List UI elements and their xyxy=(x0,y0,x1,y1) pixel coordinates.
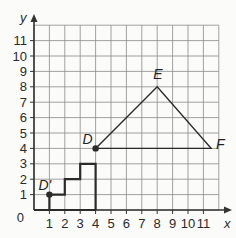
coordinate-plane: 123456789101112345678910110xy D'DEF xyxy=(0,0,236,238)
y-axis-arrow-icon xyxy=(31,14,38,22)
x-axis-label: x xyxy=(223,216,231,231)
x-tick-label: 1 xyxy=(46,216,53,231)
point-label: F xyxy=(216,136,226,152)
point-label: D' xyxy=(38,177,52,193)
x-tick-label: 4 xyxy=(92,216,99,231)
y-tick-label: 6 xyxy=(20,110,27,125)
x-tick-label: 5 xyxy=(107,216,114,231)
x-axis-arrow-icon xyxy=(224,207,232,214)
y-tick-label: 7 xyxy=(20,95,27,110)
x-tick-label: 8 xyxy=(154,216,161,231)
y-tick-label: 2 xyxy=(20,172,27,187)
point-label: D xyxy=(83,131,93,147)
y-axis-label: y xyxy=(19,10,28,25)
x-tick-label: 11 xyxy=(197,216,211,231)
x-tick-label: 2 xyxy=(61,216,68,231)
y-tick-label: 1 xyxy=(20,187,27,202)
y-tick-label: 8 xyxy=(20,79,27,94)
point-label: E xyxy=(153,66,163,82)
y-tick-label: 9 xyxy=(20,64,27,79)
coordinate-grid-diagram: 123456789101112345678910110xy D'DEF xyxy=(0,0,236,238)
y-tick-label: 4 xyxy=(20,141,27,156)
y-tick-label: 11 xyxy=(14,33,28,48)
x-tick-label: 7 xyxy=(138,216,145,231)
points: D'DEF xyxy=(38,66,226,198)
x-tick-label: 9 xyxy=(169,216,176,231)
staircase-shape xyxy=(49,164,95,210)
y-tick-label: 3 xyxy=(20,156,27,171)
y-tick-label: 10 xyxy=(13,49,27,64)
x-tick-label: 3 xyxy=(77,216,84,231)
x-tick-label: 6 xyxy=(123,216,130,231)
x-tick-label: 10 xyxy=(181,216,195,231)
y-tick-label: 5 xyxy=(20,126,27,141)
point-dot xyxy=(92,145,98,151)
origin-label: 0 xyxy=(17,210,24,225)
axes xyxy=(31,14,233,214)
tick-labels: 123456789101112345678910110xy xyxy=(13,10,231,231)
